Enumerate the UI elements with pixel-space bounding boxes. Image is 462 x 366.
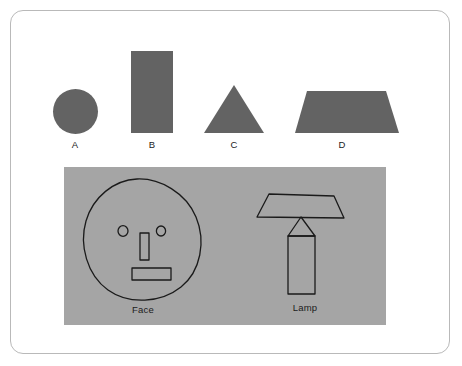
- lamp-drawing: [257, 194, 344, 294]
- caption-face: Face: [113, 304, 173, 315]
- shape-triangle-c: [204, 85, 264, 134]
- worksheet-page: A B C D: [0, 0, 462, 366]
- shape-rectangle-b: [131, 51, 173, 133]
- illustration-panel: [64, 167, 386, 325]
- lamp-body-rectangle: [288, 236, 315, 294]
- nose-rectangle: [140, 233, 149, 260]
- face-drawing: [84, 179, 201, 300]
- shape-trapezoid-d: [295, 91, 399, 134]
- shape-circle-a: [53, 89, 98, 134]
- shape-label-a: A: [65, 139, 85, 150]
- head-circle: [84, 179, 201, 300]
- shape-label-d: D: [332, 139, 352, 150]
- lamp-neck-triangle: [288, 217, 315, 236]
- lamp-shade-trapezoid: [257, 194, 344, 218]
- trapezoid-glyph: [295, 91, 399, 134]
- caption-lamp: Lamp: [275, 302, 335, 313]
- right-eye: [156, 226, 165, 236]
- shape-label-c: C: [224, 139, 244, 150]
- mouth-rectangle: [132, 268, 171, 280]
- triangle-glyph: [204, 85, 264, 134]
- left-eye: [118, 226, 128, 237]
- shape-label-b: B: [142, 139, 162, 150]
- panel-drawings: [64, 167, 386, 325]
